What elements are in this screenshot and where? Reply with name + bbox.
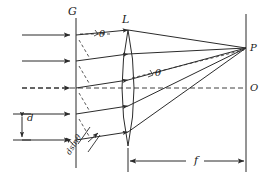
diffraction-grating-figure: G L P O d f θ θ dsinθ	[0, 0, 264, 179]
diffracted-ray-2	[76, 54, 128, 61]
wavefront-1	[79, 40, 89, 57]
converging-ray-4	[128, 48, 246, 106]
converging-ray-5	[128, 48, 246, 132]
wavefront-3	[79, 93, 89, 110]
diffracted-ray-3	[76, 80, 128, 88]
diffracted-ray-4	[76, 106, 128, 114]
grating-label: G	[68, 6, 77, 17]
incident-rays	[22, 35, 70, 140]
theta-upper-label: θ	[99, 29, 105, 39]
focal-length-dimension	[128, 148, 244, 172]
lens-label: L	[122, 14, 129, 25]
diffracted-rays	[76, 30, 128, 140]
slit-spacing-label: d	[27, 113, 33, 123]
focal-length-label: f	[194, 155, 198, 166]
converging-ray-1	[128, 30, 246, 48]
focal-point-label: P	[250, 43, 257, 53]
converging-rays	[128, 30, 246, 132]
axis-point-label: O	[250, 83, 258, 93]
theta-lower-label: θ	[155, 68, 161, 78]
wavefront-2	[79, 66, 89, 83]
figure-canvas	[0, 0, 264, 179]
wavefront-4	[79, 119, 89, 136]
